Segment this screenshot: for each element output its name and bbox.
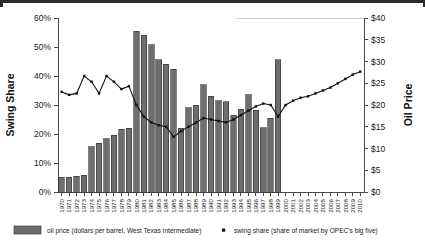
bar [163, 64, 169, 192]
swing-share-point [150, 121, 152, 123]
bar [231, 115, 237, 192]
x-tick-label: 2007 [334, 198, 341, 212]
right-axis-title: Oil Price [402, 84, 414, 127]
left-tick-label: 50% [34, 42, 51, 52]
bar [74, 176, 80, 192]
x-tick-label: 1991 [215, 198, 222, 212]
x-tick-label: 1974 [88, 198, 95, 212]
x-tick-label: 1973 [80, 198, 87, 212]
x-tick-label: 2002 [297, 198, 304, 212]
swing-share-point [255, 105, 257, 107]
swing-share-point [172, 136, 174, 138]
bar [193, 105, 199, 192]
bar [260, 128, 266, 192]
x-tick-label: 1980 [133, 198, 140, 212]
x-tick-label: 2009 [349, 198, 356, 212]
bar [253, 110, 259, 192]
bar [178, 128, 184, 192]
x-tick-label: 2001 [289, 198, 296, 212]
bar [216, 101, 222, 192]
x-tick-label: 1996 [252, 198, 259, 212]
x-tick-label: 2003 [304, 198, 311, 212]
x-tick-label: 1977 [110, 198, 117, 212]
x-tick-label: 1999 [274, 198, 281, 212]
swing-share-point [202, 117, 204, 119]
right-tick-label: $5 [371, 165, 381, 175]
swing-share-point [128, 85, 130, 87]
x-tick-label: 2006 [327, 198, 334, 212]
swing-share-point [307, 95, 309, 97]
swing-share-point [292, 99, 294, 101]
chart-plot-area: 0%10%20%30%40%50%60%$0$5$10$15$20$25$30$… [0, 0, 425, 246]
swing-share-point [240, 114, 242, 116]
x-tick-label: 1983 [155, 198, 162, 212]
bar [59, 177, 65, 192]
right-tick-label: $25 [371, 78, 385, 88]
legend-label-swing-share: swing share (share of market by OPEC's b… [234, 227, 378, 235]
swing-share-point [120, 88, 122, 90]
x-tick-label: 2010 [356, 198, 363, 212]
right-tick-label: $15 [371, 122, 385, 132]
x-tick-label: 1970 [58, 198, 65, 212]
bar-swatch [14, 226, 41, 234]
x-tick-label: 1975 [95, 198, 102, 212]
x-tick-label: 1979 [125, 198, 132, 212]
right-tick-label: $30 [371, 57, 385, 67]
swing-share-point [143, 115, 145, 117]
swing-share-point [68, 94, 70, 96]
x-tick-label: 1986 [177, 198, 184, 212]
swing-share-point [75, 92, 77, 94]
swing-share-point [217, 120, 219, 122]
swing-share-point [90, 81, 92, 83]
x-tick-label: 2000 [282, 198, 289, 212]
left-tick-label: 20% [34, 129, 51, 139]
swing-share-point [314, 92, 316, 94]
swing-share-point [210, 118, 212, 120]
bar [268, 118, 274, 192]
x-tick-label: 1995 [245, 198, 252, 212]
right-tick-label: $40 [371, 13, 385, 23]
swing-share-point [270, 104, 272, 106]
bar [186, 108, 192, 192]
swing-share-point [113, 81, 115, 83]
x-tick-label: 1992 [222, 198, 229, 212]
left-axis-title: Swing Share [4, 73, 16, 136]
right-tick-label: $10 [371, 144, 385, 154]
swing-share-point [180, 130, 182, 132]
swing-share-point [105, 75, 107, 77]
swing-share-point [329, 86, 331, 88]
x-tick-label: 1988 [192, 198, 199, 212]
bar [275, 60, 281, 192]
x-tick-label: 1998 [267, 198, 274, 212]
bar [81, 175, 87, 192]
x-tick-label: 2008 [342, 198, 349, 212]
swing-share-point [165, 126, 167, 128]
swing-share-point [83, 75, 85, 77]
x-tick-label: 1971 [65, 198, 72, 212]
left-tick-label: 60% [34, 13, 51, 23]
chart-legend: oil price (dollars per barrel, West Texa… [14, 226, 378, 235]
swing-share-point [158, 124, 160, 126]
bar [119, 129, 125, 192]
swing-share-point [187, 126, 189, 128]
swing-share-point [247, 110, 249, 112]
x-tick-label: 2005 [319, 198, 326, 212]
swing-share-point [61, 91, 63, 93]
swing-share-point [359, 70, 361, 72]
right-tick-label: $35 [371, 35, 385, 45]
bar [134, 31, 140, 192]
swing-share-point [337, 82, 339, 84]
x-tick-label: 1993 [230, 198, 237, 212]
right-tick-label: $0 [371, 187, 381, 197]
bar [171, 69, 177, 192]
bar [126, 128, 132, 192]
swing-share-point [195, 121, 197, 123]
swing-share-point [299, 97, 301, 99]
bar [149, 45, 155, 192]
x-tick-label: 1976 [103, 198, 110, 212]
bar [208, 96, 214, 192]
swing-share-point [225, 121, 227, 123]
bar [223, 102, 229, 192]
x-tick-label: 1990 [207, 198, 214, 212]
bar [96, 143, 102, 192]
